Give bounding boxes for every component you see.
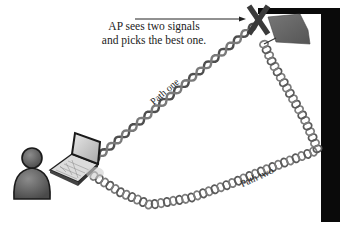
caption-line-2: and picks the best one.	[70, 33, 238, 47]
person-icon	[14, 148, 50, 199]
origin-glow	[86, 167, 104, 179]
caption-line-1: AP sees two signals	[70, 19, 238, 33]
caption: AP sees two signals and picks the best o…	[70, 19, 238, 47]
